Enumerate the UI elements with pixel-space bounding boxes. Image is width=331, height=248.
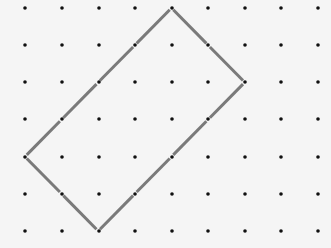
grid-dot[interactable] bbox=[133, 6, 137, 10]
grid-dot[interactable] bbox=[170, 155, 174, 159]
grid-dot[interactable] bbox=[243, 229, 247, 233]
grid-dot[interactable] bbox=[97, 117, 101, 121]
grid-dot[interactable] bbox=[170, 80, 174, 84]
dot-grid-board[interactable] bbox=[0, 0, 331, 248]
grid-dot[interactable] bbox=[279, 192, 283, 196]
grid-dot[interactable] bbox=[60, 117, 64, 121]
grid-dot[interactable] bbox=[60, 192, 64, 196]
polygon-edge-segment bbox=[100, 47, 133, 81]
grid-dot[interactable] bbox=[316, 229, 320, 233]
grid-dot[interactable] bbox=[97, 155, 101, 159]
polygon-edge-segment bbox=[63, 196, 96, 230]
grid-dot[interactable] bbox=[243, 155, 247, 159]
grid-dot[interactable] bbox=[23, 229, 27, 233]
grid-dot[interactable] bbox=[206, 43, 210, 47]
grid-dot[interactable] bbox=[206, 6, 210, 10]
grid-dot[interactable] bbox=[133, 117, 137, 121]
grid-dot[interactable] bbox=[316, 155, 320, 159]
grid-dot[interactable] bbox=[97, 43, 101, 47]
grid-dot[interactable] bbox=[316, 43, 320, 47]
grid-dot[interactable] bbox=[206, 80, 210, 84]
grid-dot[interactable] bbox=[23, 43, 27, 47]
grid-dot[interactable] bbox=[97, 229, 101, 233]
grid-dot[interactable] bbox=[97, 80, 101, 84]
grid-dot[interactable] bbox=[243, 6, 247, 10]
grid-dot[interactable] bbox=[23, 6, 27, 10]
grid-dot[interactable] bbox=[206, 117, 210, 121]
polygon-edge-segment bbox=[63, 84, 96, 118]
grid-dot[interactable] bbox=[316, 192, 320, 196]
polygon-edge-segment bbox=[210, 47, 243, 81]
grid-dot[interactable] bbox=[170, 229, 174, 233]
grid-dot[interactable] bbox=[60, 155, 64, 159]
grid-dot[interactable] bbox=[97, 192, 101, 196]
polygon-edge-segment bbox=[27, 158, 60, 192]
grid-dot[interactable] bbox=[206, 229, 210, 233]
grid-dot[interactable] bbox=[170, 192, 174, 196]
grid-dot[interactable] bbox=[279, 80, 283, 84]
grid-dot[interactable] bbox=[279, 229, 283, 233]
grid-dot[interactable] bbox=[170, 117, 174, 121]
grid-dot[interactable] bbox=[60, 6, 64, 10]
polygon-edge-segment bbox=[137, 10, 170, 44]
polygon-edge-segment bbox=[100, 196, 133, 230]
grid-dot[interactable] bbox=[279, 117, 283, 121]
grid-dot[interactable] bbox=[206, 192, 210, 196]
polygon-edge-segment bbox=[173, 10, 206, 44]
grid-dot[interactable] bbox=[133, 229, 137, 233]
grid-dot[interactable] bbox=[316, 80, 320, 84]
grid-dot[interactable] bbox=[60, 43, 64, 47]
grid-dot[interactable] bbox=[243, 43, 247, 47]
grid-dot[interactable] bbox=[23, 117, 27, 121]
grid-dot[interactable] bbox=[97, 6, 101, 10]
polygon-edge-segment bbox=[210, 84, 243, 118]
grid-dot[interactable] bbox=[206, 155, 210, 159]
grid-dot[interactable] bbox=[316, 117, 320, 121]
grid-dot[interactable] bbox=[243, 80, 247, 84]
polygon-edge-segment bbox=[27, 121, 60, 155]
polygon-edge-segment bbox=[173, 121, 206, 155]
grid-dot[interactable] bbox=[279, 155, 283, 159]
grid-dot[interactable] bbox=[60, 80, 64, 84]
grid-dot[interactable] bbox=[60, 229, 64, 233]
grid-dot[interactable] bbox=[133, 43, 137, 47]
grid-dot[interactable] bbox=[133, 80, 137, 84]
grid-dot[interactable] bbox=[279, 43, 283, 47]
grid-dot[interactable] bbox=[23, 192, 27, 196]
grid-dot[interactable] bbox=[133, 192, 137, 196]
grid-dot[interactable] bbox=[243, 192, 247, 196]
grid-dot[interactable] bbox=[133, 155, 137, 159]
grid-dot[interactable] bbox=[23, 155, 27, 159]
grid-dot[interactable] bbox=[316, 6, 320, 10]
grid-dot[interactable] bbox=[170, 6, 174, 10]
grid-dot[interactable] bbox=[170, 43, 174, 47]
grid-dot[interactable] bbox=[243, 117, 247, 121]
grid-dot[interactable] bbox=[23, 80, 27, 84]
polygon-edge-segment bbox=[137, 158, 170, 192]
grid-dot[interactable] bbox=[279, 6, 283, 10]
